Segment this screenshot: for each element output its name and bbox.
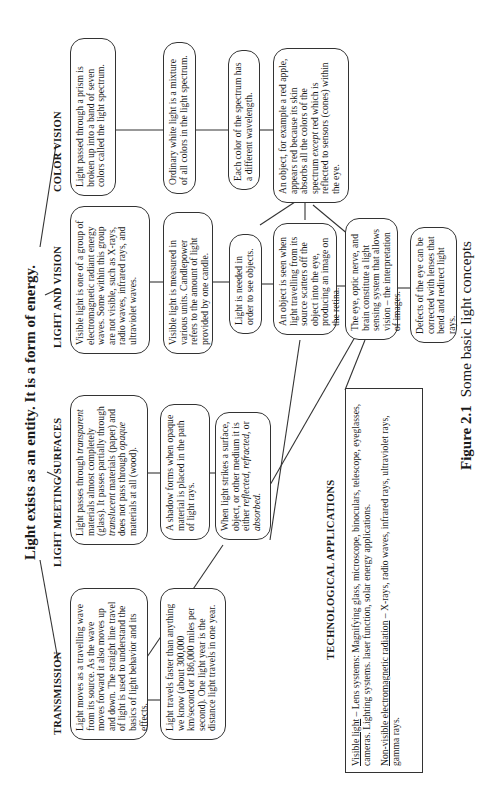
vision-box-candlepower: Visible light is measured in various uni… — [163, 212, 213, 354]
box-text: An object, for example a red apple, appe… — [278, 57, 342, 194]
surfaces-box-strike: When light strikes a surface, object, or… — [215, 412, 271, 540]
box-text: Defects of the eye can be corrected with… — [415, 236, 457, 334]
figure-rotated-page: Light exists as an entity. It is a form … — [0, 0, 503, 810]
header-light-meeting-surfaces: LIGHT MEETING SURFACES — [52, 418, 63, 567]
term-transparent: transparent — [74, 409, 85, 453]
tech-visible-light: Visible light – Lens systems: Magnifying… — [351, 395, 372, 766]
text-run: or — [240, 421, 251, 431]
label-visible-light: Visible light — [350, 719, 361, 766]
color-box-white-light: Ordinary white light is a mixture of all… — [163, 42, 196, 194]
vision-box-needed: Light is needed in order to see objects. — [229, 234, 262, 334]
term-reflected-refracted: reflected, refracted, — [240, 432, 251, 507]
header-color-vision: COLOR VISION — [52, 111, 63, 192]
box-text: Light travels faster than anything we kn… — [165, 597, 218, 731]
color-box-prism: Light passed through a prism is broken u… — [70, 38, 116, 196]
box-text: An object is seen when light travelling … — [278, 232, 342, 326]
figure-caption: Figure 2.1Some basic light concepts — [458, 241, 475, 470]
text-run: materials at all (wood). — [127, 447, 138, 536]
box-text: When light strikes a surface, object, or… — [220, 421, 262, 531]
color-box-red-apple: An object, for example a red apple, appe… — [273, 48, 349, 203]
transmission-box-speed: Light travels faster than anything we kn… — [160, 588, 226, 740]
box-text: Ordinary white light is a mixture of all… — [168, 51, 189, 185]
term-opaque: opaque — [116, 422, 127, 450]
color-box-wavelength: Each color of the spectrum has a differe… — [228, 50, 260, 190]
text-run: Light passes through — [74, 454, 85, 536]
box-text: Visible light is one of a group of elect… — [75, 215, 139, 345]
box-text: Each color of the spectrum has a differe… — [233, 59, 254, 181]
tech-applications-box: Visible light – Lens systems: Magnifying… — [345, 388, 423, 773]
term-except: except — [309, 132, 320, 157]
surfaces-box-shadow: A shadow forms when opaque material is p… — [160, 404, 210, 540]
caption-label: Figure 2.1 — [458, 405, 474, 470]
box-text: Light passes through transparent materia… — [75, 404, 139, 536]
vision-box-electromagnetic: Visible light is one of a group of elect… — [70, 206, 150, 354]
header-light-and-vision: LIGHT AND VISION — [52, 246, 63, 348]
box-text: Visible light is measured in various uni… — [168, 221, 210, 345]
box-text: Light passed through a prism is broken u… — [75, 47, 107, 187]
box-text: Light moves as a travelling wave from it… — [75, 597, 149, 731]
text-run: materials almost completely (glass). It … — [85, 406, 107, 536]
term-translucent: translucent — [106, 493, 117, 536]
label-non-visible: Non-visible electromagnetic radiation — [379, 621, 390, 766]
term-absorbed: absorbed. — [251, 493, 262, 531]
surfaces-box-transparency: Light passes through transparent materia… — [70, 395, 148, 545]
diagram-title: Light exists as an entity. It is a form … — [22, 265, 39, 560]
header-transmission: TRANSMISSION — [52, 651, 63, 735]
caption-text: Some basic light concepts — [458, 241, 474, 397]
transmission-box-wave: Light moves as a travelling wave from it… — [70, 588, 148, 740]
box-text: Light is needed in order to see objects. — [234, 243, 255, 325]
box-text: The eye, optic nerve, and brain constitu… — [350, 227, 403, 331]
vision-box-object-seen: An object is seen when light travelling … — [273, 223, 337, 335]
tech-non-visible: Non-visible electromagnetic radiation – … — [380, 395, 401, 766]
vision-box-eye-system: The eye, optic nerve, and brain constitu… — [345, 218, 398, 340]
box-text: A shadow forms when opaque material is p… — [165, 413, 197, 531]
header-technological-applications: TECHNOLOGICAL APPLICATIONS — [325, 480, 336, 660]
text-run: – Lens systems: Magnifying glass, micros… — [350, 404, 372, 766]
vision-box-defects: Defects of the eye can be corrected with… — [410, 227, 457, 343]
